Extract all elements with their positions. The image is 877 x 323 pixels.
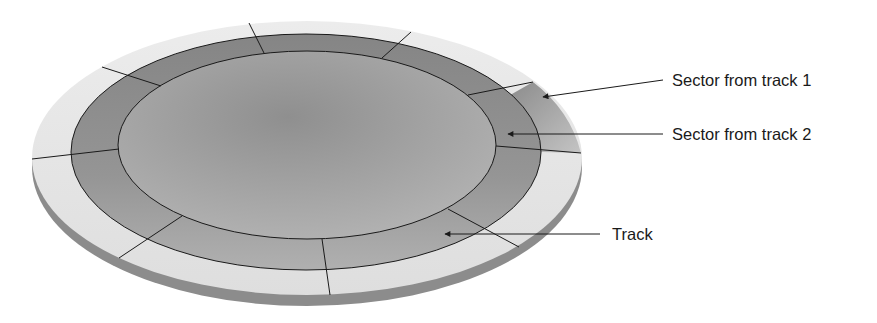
disk-platter-diagram: [0, 0, 877, 323]
label-track: Track: [612, 226, 653, 243]
arrow-sector-track1: [543, 80, 663, 97]
inner-surface: [118, 51, 496, 239]
label-sector-track2: Sector from track 2: [672, 126, 811, 143]
label-sector-track1: Sector from track 1: [672, 72, 811, 89]
